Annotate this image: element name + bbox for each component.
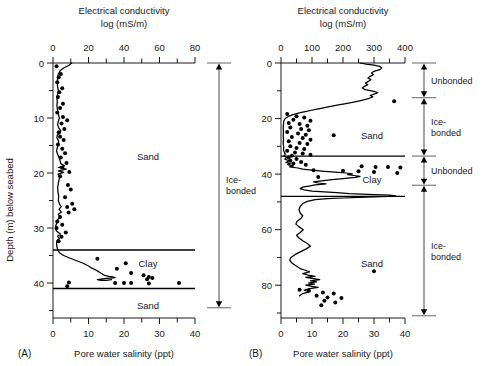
lithology-label: Clay: [138, 258, 157, 269]
bracket-label-line2: bonded: [431, 128, 461, 138]
salinity-data-point: [302, 147, 306, 151]
panel-a-top-axis-title-line1: Electrical conductivity: [79, 5, 170, 16]
salinity-data-point: [55, 64, 59, 68]
salinity-data-point: [304, 163, 308, 167]
panel-b-depth-axis: 020406080: [261, 58, 281, 319]
top-tick-label: 100: [304, 42, 320, 53]
salinity-data-point: [129, 281, 133, 285]
salinity-data-point: [307, 128, 311, 132]
salinity-data-point: [129, 271, 133, 275]
bracket-label-line2: bonded: [226, 186, 256, 196]
salinity-data-point: [288, 159, 292, 163]
salinity-data-point: [295, 157, 299, 161]
salinity-data-point: [56, 142, 60, 146]
salinity-data-point: [293, 150, 297, 154]
panel-a-bottom-axis-title: Pore water salinity (ppt): [74, 348, 174, 359]
panel-a-bonding-brackets: Ice-bonded: [207, 63, 256, 308]
panel-a: Electrical conductivity log (mS/m) Depth…: [4, 5, 256, 359]
salinity-data-point: [60, 223, 64, 227]
salinity-data-point: [145, 277, 149, 281]
panel-b-bonding-brackets: UnbondedIce-bondedUnbondedIce-bonded: [412, 63, 473, 316]
salinity-data-point: [66, 183, 70, 187]
salinity-data-point: [58, 215, 62, 219]
bracket-arrowhead-up: [421, 157, 427, 163]
salinity-data-point: [64, 161, 68, 165]
panel-a-depth-ticklabels: 010203040: [33, 58, 44, 289]
bottom-tick-label: 10: [83, 328, 94, 339]
bracket-arrowhead-down: [216, 301, 222, 307]
salinity-data-point: [287, 121, 291, 125]
salinity-data-point: [295, 114, 299, 118]
salinity-data-point: [60, 122, 64, 126]
salinity-data-point: [308, 119, 312, 123]
bracket-label-line1: Ice-: [226, 175, 241, 185]
salinity-data-point: [372, 269, 376, 273]
bracket-label-line1: Ice-: [431, 241, 446, 251]
salinity-data-point: [312, 168, 316, 172]
conductivity-log-line: [55, 63, 115, 280]
depth-tick-label: 10: [33, 113, 44, 124]
salinity-data-point: [326, 295, 330, 299]
salinity-data-point: [341, 169, 345, 173]
salinity-data-point: [285, 130, 289, 134]
salinity-data-point: [147, 282, 151, 286]
panel-b-depth-ticks: [275, 63, 281, 313]
salinity-data-point: [332, 133, 336, 137]
salinity-data-point: [72, 207, 76, 211]
panel-b-top-axis: 0100200300400: [278, 42, 413, 63]
lithology-label: Sand: [361, 258, 383, 269]
salinity-data-point: [150, 276, 154, 280]
salinity-data-point: [304, 133, 308, 137]
panel-a-depth-ticks: [47, 63, 53, 311]
salinity-data-point: [360, 164, 364, 168]
salinity-data-point: [63, 195, 67, 199]
salinity-data-point: [58, 174, 62, 178]
salinity-data-point: [332, 292, 336, 296]
panel-a-depth-axis: 010203040: [33, 58, 53, 319]
bracket-arrowhead-down: [421, 309, 427, 315]
top-tick-label: 60: [154, 42, 165, 53]
salinity-data-point: [57, 239, 61, 243]
salinity-data-point: [55, 111, 59, 115]
salinity-data-point: [299, 127, 303, 131]
salinity-data-point: [57, 130, 61, 134]
salinity-data-point: [302, 115, 306, 119]
bracket-arrowhead-up: [421, 186, 427, 192]
panel-b-bottom-axis: 010203040: [278, 318, 410, 339]
salinity-data-point: [177, 281, 181, 285]
bottom-tick-label: 0: [278, 328, 283, 339]
salinity-data-point: [61, 102, 65, 106]
bracket-arrowhead-up: [216, 64, 222, 70]
salinity-data-point: [64, 230, 68, 234]
salinity-data-point: [307, 289, 311, 293]
panel-a-top-axis-title-line2: log (mS/m): [101, 18, 147, 29]
top-tick-label: 80: [190, 42, 201, 53]
panel-b-top-axis-title-line1: Electrical conductivity: [298, 5, 389, 16]
salinity-data-point: [308, 153, 312, 157]
salinity-data-point: [298, 288, 302, 292]
bracket-label-line1: Ice-: [431, 117, 446, 127]
salinity-data-point: [142, 273, 146, 277]
bracket-label-line1: Unbonded: [431, 166, 473, 176]
panel-a-lithology-labels: SandClaySand: [137, 151, 159, 311]
top-tick-label: 300: [366, 42, 382, 53]
panel-b-lithology-labels: SandClaySand: [361, 130, 383, 269]
salinity-data-point: [59, 156, 63, 160]
salinity-data-point: [285, 112, 289, 116]
top-tick-label: 20: [83, 42, 94, 53]
panel-a-top-axis: 020406080: [50, 42, 200, 63]
panel-b: Electrical conductivity log (mS/m) Pore …: [249, 5, 473, 359]
depth-tick-label: 0: [267, 58, 272, 69]
bottom-tick-label: 40: [400, 328, 411, 339]
salinity-data-point: [301, 152, 305, 156]
bracket-arrowhead-up: [421, 64, 427, 70]
salinity-data-point: [316, 175, 320, 179]
panel-a-bottom-ticklabels: 010203040: [50, 328, 200, 339]
panel-a-bottom-axis: 010203040: [50, 318, 200, 339]
panel-b-bottom-ticks: [281, 318, 405, 324]
salinity-data-point: [288, 125, 292, 129]
salinity-data-point: [67, 280, 71, 284]
salinity-data-point: [298, 122, 302, 126]
salinity-data-point: [60, 235, 64, 239]
panel-b-top-axis-title-line2: log (mS/m): [320, 18, 366, 29]
